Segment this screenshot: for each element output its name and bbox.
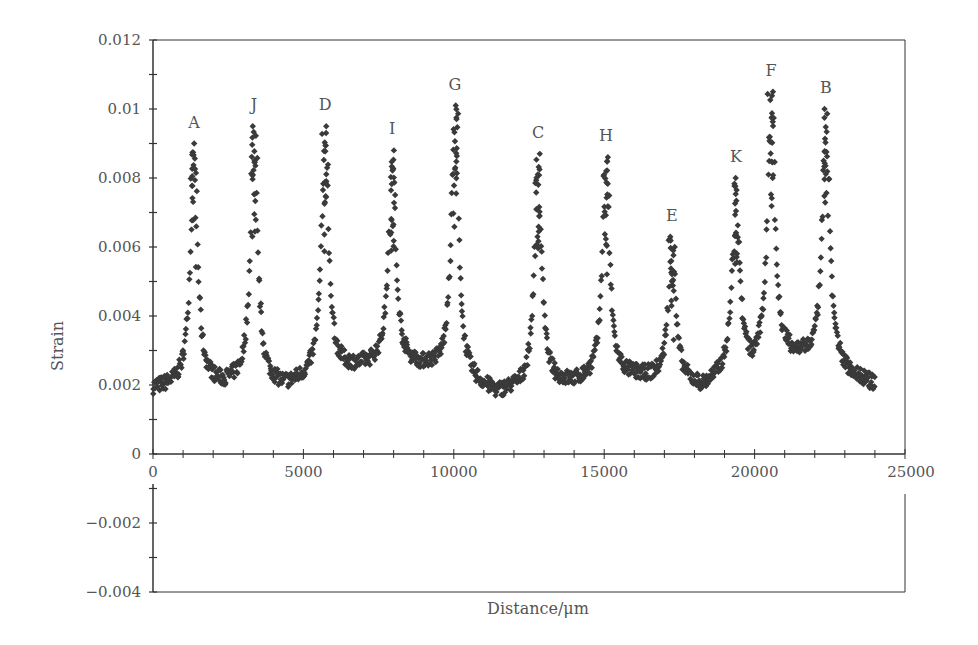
y-tick-label: 0.002 [98,376,141,394]
y-tick-label: 0 [131,445,141,463]
peak-label-e: E [666,206,678,225]
peak-label-h: H [599,126,613,145]
peak-label-g: G [449,75,462,94]
y-axis-title: Strain [48,321,67,371]
x-tick-label: 25000 [887,463,935,481]
x-tick-label: 15000 [580,463,628,481]
peak-label-i: I [389,119,395,138]
x-tick-label: 10000 [430,463,478,481]
y-tick-label: −0.002 [85,514,141,532]
peak-label-c: C [532,123,544,142]
y-tick-label: 0.008 [98,169,141,187]
peak-label-k: K [730,147,743,166]
peak-label-j: J [249,95,257,114]
x-tick-label: 0 [148,463,158,481]
x-tick-label: 20000 [731,463,779,481]
peak-label-d: D [319,95,332,114]
peak-label-b: B [820,78,832,97]
plot-frame [153,40,905,592]
peak-label-f: F [766,61,777,80]
x-axis-title: Distance/μm [487,599,589,618]
tick-labels: 0.0120.010.0080.0060.0040.0020−0.002−0.0… [85,31,934,601]
y-tick-label: 0.01 [108,100,141,118]
strain-distance-chart: 0.0120.010.0080.0060.0040.0020−0.002−0.0… [0,0,978,645]
y-tick-label: 0.004 [98,307,141,325]
y-tick-label: 0.006 [98,238,141,256]
x-tick-label: 5000 [284,463,322,481]
y-tick-label: 0.012 [98,31,141,49]
axis-ticks [149,40,905,592]
data-points [150,89,878,399]
y-tick-label: −0.004 [85,583,141,601]
peak-label-a: A [187,113,200,132]
